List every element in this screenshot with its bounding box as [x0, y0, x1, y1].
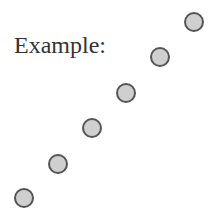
circle-dot-4	[82, 118, 102, 138]
circle-dot-1	[184, 12, 204, 32]
circle-dot-6	[14, 188, 34, 208]
circle-dot-2	[150, 47, 170, 67]
circle-dot-3	[116, 83, 136, 103]
example-label: Example:	[14, 33, 106, 57]
circle-dot-5	[48, 154, 68, 174]
